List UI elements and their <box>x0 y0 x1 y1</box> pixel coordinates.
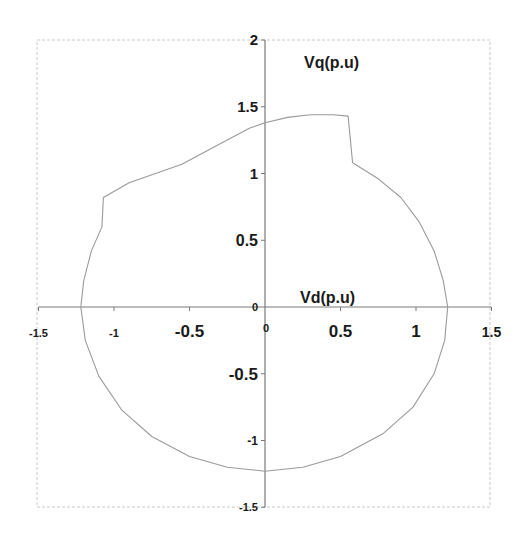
plot-frame <box>37 40 490 507</box>
y-tick-label: 0 <box>252 301 258 313</box>
y-tick-label: 1.5 <box>237 98 258 115</box>
x-tick-label: 0.5 <box>329 322 353 341</box>
x-tick-label: 1.5 <box>482 324 502 340</box>
trajectory-curve <box>81 115 448 471</box>
x-tick-label: -0.5 <box>175 322 204 341</box>
vd-vq-chart: -1.5-1-0.500.511.5 21.510.50-0.5-1-1.5 V… <box>0 0 530 537</box>
y-tick-label: -0.5 <box>229 365 258 384</box>
y-tick-labels: 21.510.50-0.5-1-1.5 <box>229 31 265 513</box>
y-tick-label: -1.5 <box>239 501 258 513</box>
y-tick-label: 1 <box>250 165 258 182</box>
y-tick-label: -1 <box>247 434 258 448</box>
x-tick-label: -1 <box>109 327 119 339</box>
x-axis-title: Vd(p.u) <box>300 289 355 306</box>
axes <box>39 40 492 507</box>
y-tick-label: 2 <box>250 31 258 48</box>
y-axis-title: Vq(p.u) <box>304 54 359 71</box>
x-tick-label: 0 <box>263 322 269 334</box>
x-tick-label: -1.5 <box>29 327 48 339</box>
x-tick-label: 1 <box>411 322 420 341</box>
y-tick-label: 0.5 <box>236 232 258 249</box>
